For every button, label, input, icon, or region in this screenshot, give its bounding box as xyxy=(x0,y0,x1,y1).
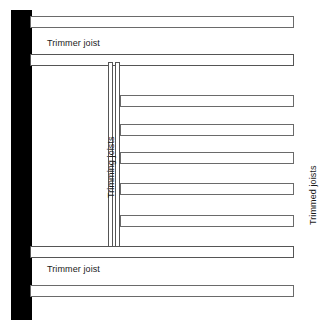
trimmer-joist-upper xyxy=(30,54,294,66)
trimmer-joist-top-label: Trimmer joist xyxy=(47,39,100,48)
trimmer-joist-bottom-label: Trimmer joist xyxy=(47,265,100,274)
trimmed-joist-1 xyxy=(120,95,294,107)
joist-full-bottom xyxy=(30,285,294,297)
supporting-wall xyxy=(11,10,32,320)
trimmed-joist-2 xyxy=(120,124,294,136)
trimmed-joist-3 xyxy=(120,152,294,164)
trimmed-joist-5 xyxy=(120,215,294,227)
trimmer-joist-lower xyxy=(30,246,294,258)
trimming-joists-label: Trimming joists xyxy=(107,136,116,198)
trimmed-joists-label: Trimmed joists xyxy=(309,165,318,225)
trimmed-joist-4 xyxy=(120,183,294,195)
joist-full-top xyxy=(30,16,294,28)
joist-framing-diagram: Trimmer joistTrimming joistsTrimmed jois… xyxy=(0,0,325,333)
